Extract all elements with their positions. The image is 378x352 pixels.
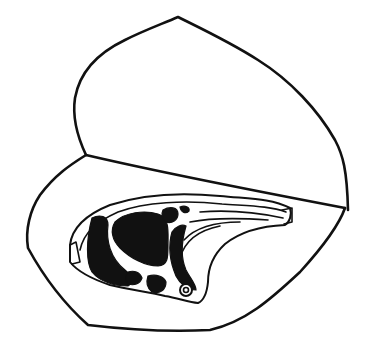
chop-meat-bottom-1	[147, 275, 166, 292]
chop-meat-bottom-2	[126, 271, 142, 285]
wrapped-chop-drawing	[0, 0, 378, 352]
chop	[70, 194, 292, 303]
chop-meat-top-1	[162, 208, 178, 223]
chop-bone-marrow	[180, 284, 192, 296]
illustration-canvas	[0, 0, 378, 352]
